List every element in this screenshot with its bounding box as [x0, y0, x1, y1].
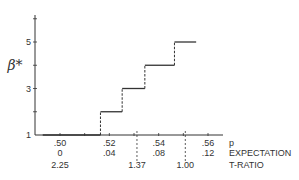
- step-series: [43, 42, 196, 135]
- x-tick-label-expectation: 0: [57, 148, 62, 158]
- x-tick-label-expectation: .08: [152, 148, 165, 158]
- x-tick-label-p: .56: [202, 138, 215, 148]
- x-tick-label-expectation: .04: [103, 148, 116, 158]
- x-axis-row-title: T-RATIO: [229, 160, 264, 170]
- x-tick-label-p: .54: [152, 138, 165, 148]
- x-axis-row-title: EXPECTATION: [229, 148, 291, 158]
- t-ratio-label: 2.25: [51, 160, 69, 170]
- x-axis-row-title: p: [229, 138, 234, 148]
- x-tick-label-p: .50: [54, 138, 67, 148]
- y-tick-label: 5: [26, 37, 31, 47]
- y-tick-label: 3: [26, 84, 31, 94]
- t-ratio-label: 1.37: [128, 160, 146, 170]
- x-tick-label-p: .52: [103, 138, 116, 148]
- y-axis-title: β*: [6, 57, 22, 73]
- t-ratio-label: 1.00: [177, 160, 195, 170]
- x-tick-label-expectation: .12: [202, 148, 215, 158]
- y-tick-label: 1: [26, 130, 31, 140]
- beta-step-chart: 135β*.500.52.04.54.08.56.122.251.371.00p…: [0, 0, 299, 180]
- axis-labels: 135β*.500.52.04.54.08.56.122.251.371.00p…: [6, 37, 291, 170]
